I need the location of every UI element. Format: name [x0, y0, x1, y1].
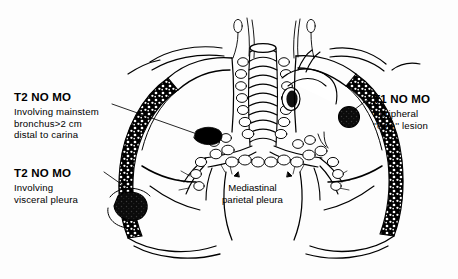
- callout-coin-title: T1 NO MO: [373, 92, 430, 106]
- vascular-marking: [318, 132, 328, 148]
- callout-mainstem: T2 NO MO Involving mainstem bronchus>2 c…: [14, 90, 99, 141]
- label-mediastinal-parietal-pleura: Mediastinal parietal pleura: [222, 182, 283, 206]
- mainstem-bronchus-tumor: [194, 127, 222, 144]
- supraclavicular-nodes: [233, 18, 315, 58]
- mediastinal-pleura-arrows: [234, 172, 292, 177]
- callout-coin: T1 NO MO Peripheral ''coin'' lesion: [373, 92, 430, 131]
- callout-mainstem-body: Involving mainstem bronchus>2 cm distal …: [14, 106, 99, 141]
- callout-visceral-body: Involving visceral pleura: [14, 182, 78, 205]
- callout-mainstem-title: T2 NO MO: [14, 90, 99, 104]
- peripheral-coin-lesion: [339, 107, 360, 128]
- diaphragm-outline: [128, 236, 394, 258]
- lung-cancer-staging-figure: T2 NO MO Involving mainstem bronchus>2 c…: [0, 0, 458, 279]
- callout-visceral-title: T2 NO MO: [14, 166, 78, 180]
- trachea: [249, 44, 278, 146]
- callout-coin-body: Peripheral ''coin'' lesion: [373, 108, 430, 131]
- callout-visceral: T2 NO MO Involving visceral pleura: [14, 166, 78, 205]
